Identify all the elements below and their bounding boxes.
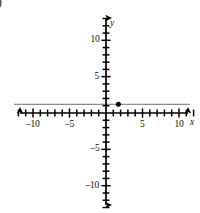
y-tick-label: 5 <box>95 72 100 82</box>
plotted-points <box>116 102 121 107</box>
y-tick-label: –5 <box>91 144 100 154</box>
x-tick-label: –10 <box>26 120 40 130</box>
y-axis-label: y <box>110 19 114 29</box>
x-tick-label: 5 <box>140 120 145 130</box>
x-axis-label: x <box>190 118 194 128</box>
graph-canvas <box>0 0 200 213</box>
coordinate-plane-figure: ) <box>0 0 200 213</box>
x-tick-label: –5 <box>65 120 74 130</box>
x-tick-label: 10 <box>175 120 184 130</box>
data-point <box>116 102 121 107</box>
y-tick-label: 10 <box>91 35 100 45</box>
y-tick-label: –10 <box>86 181 100 191</box>
